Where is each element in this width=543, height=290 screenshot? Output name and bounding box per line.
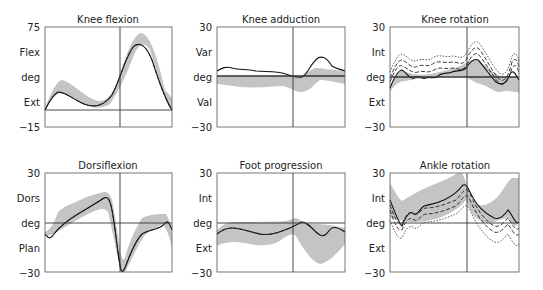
panel-foot-progression: Foot progression 30 Int deg Ext −30 <box>191 160 345 279</box>
panel-title: Knee flexion <box>77 14 139 25</box>
panel-knee-adduction: Knee adduction 30 Var deg Val −30 <box>191 14 345 133</box>
y-tick-lower-label: Ext <box>196 243 212 254</box>
normal-range-band <box>217 218 345 264</box>
panel-title: Ankle rotation <box>420 160 490 171</box>
normal-range-band <box>217 68 345 92</box>
y-tick-bottom: −30 <box>191 122 212 133</box>
y-tick-bottom: −15 <box>19 122 40 133</box>
y-tick-unit: deg <box>193 218 212 229</box>
y-tick-upper-label: Flex <box>20 47 41 58</box>
y-tick-lower-label: Ext <box>369 243 385 254</box>
normal-range-band <box>45 192 172 272</box>
y-tick-bottom: −30 <box>364 268 385 279</box>
y-tick-top: 30 <box>27 168 40 179</box>
y-tick-lower-label: Val <box>197 97 212 108</box>
y-tick-unit: deg <box>366 72 385 83</box>
gait-kinematics-figure: Knee flexion 75 Flex deg Ext −15 Knee ad… <box>0 0 543 290</box>
y-tick-top: 30 <box>372 22 385 33</box>
y-tick-lower-label: Ext <box>369 97 385 108</box>
y-tick-upper-label: Int <box>199 193 212 204</box>
normal-range-band <box>45 33 172 112</box>
panel-ankle-rotation: Ankle rotation 30 Int deg Ext −30 <box>364 160 519 279</box>
plot-frame <box>45 27 172 127</box>
y-tick-unit: deg <box>193 72 212 83</box>
y-tick-bottom: −30 <box>191 268 212 279</box>
y-tick-top: 30 <box>372 168 385 179</box>
panel-knee-rotation: Knee rotation 30 Int deg Ext −30 <box>364 14 519 133</box>
panel-title: Foot progression <box>239 160 322 171</box>
y-tick-bottom: −30 <box>364 122 385 133</box>
y-tick-lower-label: Plan <box>19 243 40 254</box>
y-tick-lower-label: Ext <box>24 97 40 108</box>
panel-title: Dorsiflexion <box>78 160 137 171</box>
y-tick-unit: deg <box>366 218 385 229</box>
y-tick-upper-label: Int <box>372 193 385 204</box>
y-tick-upper-label: Int <box>372 47 385 58</box>
y-tick-unit: deg <box>21 72 40 83</box>
panel-dorsiflexion: Dorsiflexion 30 Dors deg Plan −30 <box>17 160 172 279</box>
y-tick-top: 75 <box>27 22 40 33</box>
panel-knee-flexion: Knee flexion 75 Flex deg Ext −15 <box>19 14 172 133</box>
panel-title: Knee rotation <box>421 14 489 25</box>
y-tick-top: 30 <box>199 168 212 179</box>
panel-title: Knee adduction <box>242 14 320 25</box>
y-tick-top: 30 <box>199 22 212 33</box>
y-tick-unit: deg <box>21 218 40 229</box>
y-tick-upper-label: Dors <box>17 193 40 204</box>
y-tick-bottom: −30 <box>19 268 40 279</box>
y-tick-upper-label: Var <box>196 47 213 58</box>
